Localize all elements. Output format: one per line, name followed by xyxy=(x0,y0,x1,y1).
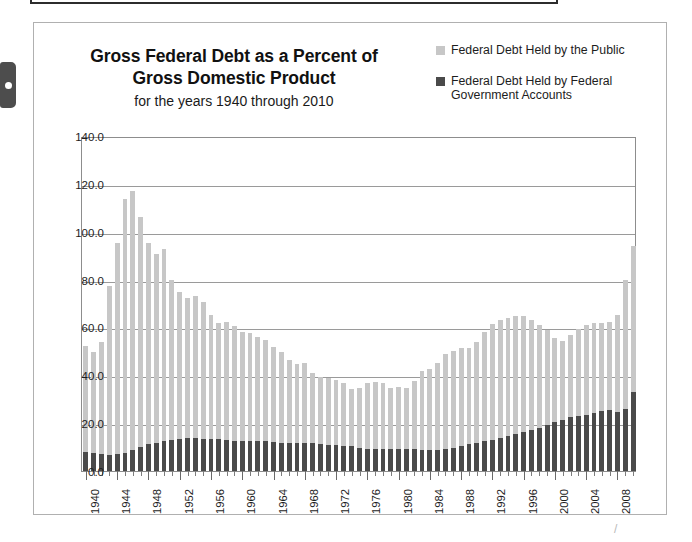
bar-column[interactable] xyxy=(396,387,401,471)
bar-segment-intragovernmental xyxy=(341,446,346,471)
bar-column[interactable] xyxy=(83,346,88,471)
bar-column[interactable] xyxy=(615,315,620,471)
bar-column[interactable] xyxy=(388,388,393,471)
bar-column[interactable] xyxy=(99,342,104,471)
bar-column[interactable] xyxy=(584,325,589,471)
bar-column[interactable] xyxy=(162,249,167,471)
bar-segment-intragovernmental xyxy=(545,425,550,471)
bar-column[interactable] xyxy=(521,316,526,471)
bar-column[interactable] xyxy=(513,316,518,471)
bar-column[interactable] xyxy=(341,383,346,471)
bar-column[interactable] xyxy=(326,378,331,471)
bar-column[interactable] xyxy=(607,322,612,471)
bar-column[interactable] xyxy=(130,191,135,471)
bar-column[interactable] xyxy=(201,302,206,471)
bar-segment-public xyxy=(381,383,386,449)
bar-column[interactable] xyxy=(295,364,300,471)
bar-column[interactable] xyxy=(373,382,378,471)
bar-column[interactable] xyxy=(115,242,120,471)
bar-segment-intragovernmental xyxy=(224,440,229,471)
bar-column[interactable] xyxy=(529,320,534,471)
bar-column[interactable] xyxy=(599,323,604,471)
bar-segment-public xyxy=(404,388,409,450)
bar-segment-public xyxy=(130,191,135,451)
x-axis-tick-label: 1996 xyxy=(527,489,539,514)
bar-column[interactable] xyxy=(318,377,323,471)
bar-segment-intragovernmental xyxy=(631,392,636,471)
bar-segment-public xyxy=(576,329,581,416)
bar-column[interactable] xyxy=(334,380,339,471)
bar-segment-intragovernmental xyxy=(552,422,557,471)
bar-column[interactable] xyxy=(623,280,628,471)
bar-segment-intragovernmental xyxy=(185,438,190,471)
bar-column[interactable] xyxy=(443,354,448,471)
bar-segment-intragovernmental xyxy=(521,432,526,471)
bar-column[interactable] xyxy=(381,383,386,471)
bar-column[interactable] xyxy=(552,338,557,471)
bar-column[interactable] xyxy=(209,315,214,471)
bar-segment-intragovernmental xyxy=(357,448,362,471)
bar-column[interactable] xyxy=(568,335,573,471)
bar-column[interactable] xyxy=(123,199,128,471)
bar-column[interactable] xyxy=(537,325,542,471)
bar-segment-public xyxy=(592,323,597,413)
bar-segment-public xyxy=(560,341,565,420)
bar-column[interactable] xyxy=(459,348,464,471)
bar-column[interactable] xyxy=(576,329,581,471)
bar-column[interactable] xyxy=(107,286,112,471)
bar-column[interactable] xyxy=(177,292,182,471)
x-axis-tick-label: 1976 xyxy=(370,489,382,514)
bar-column[interactable] xyxy=(349,389,354,471)
bar-column[interactable] xyxy=(467,348,472,471)
bar-column[interactable] xyxy=(412,381,417,471)
bar-column[interactable] xyxy=(279,352,284,471)
x-axis-tick-label: 1964 xyxy=(277,489,289,514)
bar-segment-public xyxy=(154,254,159,443)
bar-column[interactable] xyxy=(592,323,597,471)
scan-top-strip xyxy=(30,0,558,4)
bar-segment-public xyxy=(451,351,456,448)
bar-segment-public xyxy=(138,217,143,447)
bar-column[interactable] xyxy=(248,333,253,471)
bar-segment-public xyxy=(427,369,432,450)
bar-column[interactable] xyxy=(498,320,503,471)
bar-segment-public xyxy=(201,302,206,439)
bar-column[interactable] xyxy=(302,363,307,471)
bar-column[interactable] xyxy=(287,360,292,471)
bar-column[interactable] xyxy=(224,322,229,471)
bar-segment-public xyxy=(545,330,550,425)
bar-column[interactable] xyxy=(216,323,221,471)
bar-column[interactable] xyxy=(271,347,276,471)
bar-column[interactable] xyxy=(631,246,636,471)
bar-segment-public xyxy=(373,382,378,449)
bar-column[interactable] xyxy=(560,341,565,471)
bar-column[interactable] xyxy=(365,383,370,471)
bar-column[interactable] xyxy=(474,342,479,471)
bar-column[interactable] xyxy=(506,318,511,471)
bar-column[interactable] xyxy=(232,326,237,471)
bar-column[interactable] xyxy=(169,280,174,471)
bar-column[interactable] xyxy=(255,337,260,471)
bar-segment-intragovernmental xyxy=(334,445,339,471)
bar-column[interactable] xyxy=(404,388,409,472)
bar-column[interactable] xyxy=(482,332,487,471)
bar-column[interactable] xyxy=(435,363,440,471)
bar-segment-public xyxy=(302,363,307,443)
bar-column[interactable] xyxy=(193,296,198,471)
bar-column[interactable] xyxy=(427,369,432,471)
bar-column[interactable] xyxy=(357,388,362,472)
bar-column[interactable] xyxy=(310,373,315,471)
bar-column[interactable] xyxy=(263,340,268,471)
bar-column[interactable] xyxy=(138,217,143,471)
bar-column[interactable] xyxy=(240,332,245,472)
bar-column[interactable] xyxy=(451,351,456,471)
bar-segment-intragovernmental xyxy=(162,441,167,471)
bar-column[interactable] xyxy=(490,324,495,471)
bar-column[interactable] xyxy=(185,298,190,471)
bar-segment-public xyxy=(435,363,440,450)
bar-segment-public xyxy=(506,318,511,436)
bar-column[interactable] xyxy=(545,330,550,471)
bar-column[interactable] xyxy=(420,371,425,471)
bar-column[interactable] xyxy=(146,242,151,471)
bar-column[interactable] xyxy=(154,254,159,472)
